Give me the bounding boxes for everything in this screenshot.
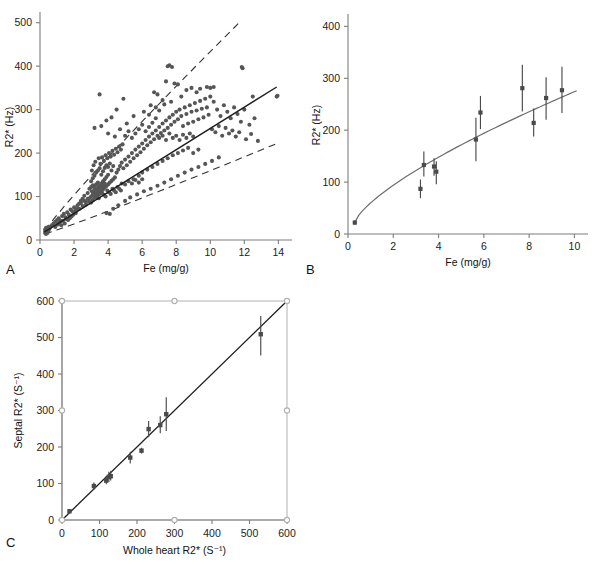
frame-resize-handle[interactable] (59, 298, 64, 303)
data-point (207, 113, 211, 117)
data-point (171, 113, 175, 117)
svg-text:400: 400 (36, 368, 54, 380)
data-point (147, 135, 151, 139)
data-point (178, 138, 182, 142)
data-point (140, 177, 144, 181)
data-point (170, 65, 174, 69)
data-point (169, 177, 173, 181)
frame-resize-handle[interactable] (284, 517, 289, 522)
data-point (208, 86, 212, 90)
data-point (210, 159, 214, 163)
svg-text:R2* (Hz): R2* (Hz) (3, 107, 15, 147)
frame-resize-handle[interactable] (284, 408, 289, 413)
data-point (215, 108, 219, 112)
data-point (203, 162, 207, 166)
data-point (169, 123, 173, 127)
data-point (205, 105, 209, 109)
data-point (92, 484, 96, 488)
data-point (147, 113, 151, 117)
frame-resize-handle[interactable] (59, 408, 64, 413)
svg-text:6: 6 (139, 246, 145, 258)
data-point (113, 175, 117, 179)
data-point (118, 164, 122, 168)
data-point (176, 82, 180, 86)
svg-text:400: 400 (322, 20, 340, 32)
data-point (176, 151, 180, 155)
svg-text:0: 0 (48, 514, 54, 526)
svg-text:100: 100 (322, 176, 340, 188)
svg-text:Fe (mg/g): Fe (mg/g) (143, 262, 189, 274)
data-point (164, 118, 168, 122)
data-point (224, 126, 228, 130)
frame-resize-handle[interactable] (284, 298, 289, 303)
data-point (212, 100, 216, 104)
data-point (130, 136, 134, 140)
data-point (174, 134, 178, 138)
data-point (150, 121, 154, 125)
data-point (152, 90, 156, 94)
data-point (189, 168, 193, 172)
data-point (112, 153, 116, 157)
data-point (434, 170, 438, 174)
data-point (133, 131, 137, 135)
data-point (99, 173, 103, 177)
panel-a-letter: A (6, 262, 15, 277)
data-point (93, 160, 97, 164)
data-point (181, 124, 185, 128)
data-point (155, 184, 159, 188)
data-point (196, 165, 200, 169)
data-point (113, 135, 117, 139)
data-point (116, 168, 120, 172)
data-point (189, 110, 193, 114)
svg-text:200: 200 (322, 124, 340, 136)
svg-text:200: 200 (36, 441, 54, 453)
frame-resize-handle[interactable] (59, 517, 64, 522)
data-point (198, 87, 202, 91)
data-point (145, 143, 149, 147)
data-point (111, 164, 115, 168)
data-point (183, 171, 187, 175)
svg-text:500: 500 (14, 16, 32, 28)
data-point (84, 200, 88, 204)
data-point (106, 165, 110, 169)
svg-text:R2* (Hz): R2* (Hz) (310, 105, 322, 145)
data-point (106, 131, 110, 135)
data-point (478, 110, 482, 114)
data-point (82, 194, 86, 198)
data-point (162, 181, 166, 185)
panel-a-regression-line (44, 87, 276, 232)
data-point (109, 192, 113, 196)
data-point (104, 211, 108, 215)
svg-text:6: 6 (481, 240, 487, 252)
data-point (119, 148, 123, 152)
data-point (193, 101, 197, 105)
svg-text:500: 500 (36, 331, 54, 343)
data-point (532, 121, 536, 125)
data-point (167, 115, 171, 119)
svg-text:12: 12 (238, 246, 250, 258)
data-point (119, 188, 123, 192)
svg-text:Fe (mg/g): Fe (mg/g) (445, 256, 491, 268)
svg-text:0: 0 (334, 228, 340, 240)
data-point (176, 174, 180, 178)
frame-resize-handle[interactable] (172, 298, 177, 303)
data-point (110, 149, 114, 153)
svg-text:200: 200 (128, 527, 146, 539)
data-point (520, 86, 524, 90)
data-point (90, 168, 94, 172)
data-point (232, 105, 236, 109)
frame-resize-handle[interactable] (172, 517, 177, 522)
svg-text:100: 100 (36, 477, 54, 489)
data-point (188, 131, 192, 135)
data-point (189, 86, 193, 90)
data-point (118, 127, 122, 131)
svg-text:0: 0 (26, 234, 32, 246)
data-point (249, 132, 253, 136)
data-point (418, 187, 422, 191)
data-point (218, 114, 222, 118)
data-point (144, 138, 148, 142)
data-point (178, 108, 182, 112)
panel-b-svg: 01002003004000246810Fe (mg/g)R2* (Hz) (300, 0, 599, 290)
panel-b-letter: B (306, 262, 315, 277)
data-point (104, 118, 108, 122)
